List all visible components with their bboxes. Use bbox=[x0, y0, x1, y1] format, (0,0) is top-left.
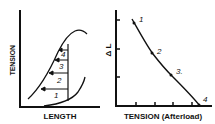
passive-tension-curve bbox=[44, 77, 85, 106]
step-label-4: 4 bbox=[61, 50, 66, 59]
right-panel: 1 2 3. 4 Δ L TENSION (Afterload) bbox=[104, 10, 212, 121]
step-label-3: 3 bbox=[59, 62, 64, 71]
left-y-label: TENSION bbox=[7, 45, 17, 75]
left-x-label: LENGTH bbox=[44, 112, 77, 121]
shortening-curve bbox=[132, 19, 200, 106]
diagram-canvas: 1 2 3 4 TENSION LENGTH 1 2 3. 4 Δ L bbox=[0, 0, 215, 124]
data-points bbox=[133, 22, 201, 107]
point-label-1: 1 bbox=[139, 15, 143, 24]
left-panel: 1 2 3 4 TENSION LENGTH bbox=[7, 10, 100, 121]
right-x-label: TENSION (Afterload) bbox=[124, 112, 203, 121]
point-label-3: 3. bbox=[176, 67, 183, 76]
point-label-4: 4 bbox=[203, 95, 208, 104]
right-y-label: Δ L bbox=[104, 43, 113, 56]
point-label-2: 2 bbox=[156, 47, 162, 56]
step-label-2: 2 bbox=[56, 76, 62, 85]
step-label-1: 1 bbox=[54, 91, 58, 100]
axis-ticks bbox=[116, 20, 192, 106]
